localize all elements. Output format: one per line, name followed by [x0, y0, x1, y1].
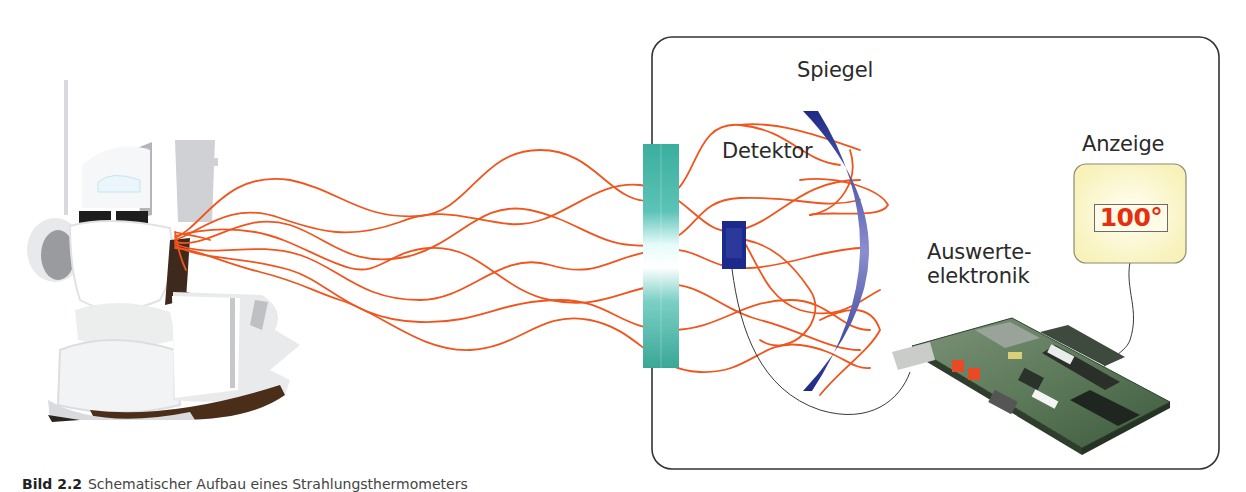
caption-number: Bild 2.2 [22, 476, 82, 492]
electronics-label-line2: elektronik [927, 265, 1029, 289]
caption-text: Schematischer Aufbau eines Strahlungsthe… [88, 476, 468, 492]
teapot-and-cups-illustration [27, 80, 300, 422]
electronics-label-line1: Auswerte- [927, 241, 1031, 265]
figure-caption: Bild 2.2Schematischer Aufbau eines Strah… [22, 476, 468, 492]
detector-label: Detektor [722, 140, 813, 164]
detector [722, 221, 746, 269]
optical-filter [643, 144, 679, 368]
temperature-readout: 100° [1094, 204, 1168, 232]
mirror-label: Spiegel [797, 59, 873, 83]
evaluation-electronics-board [892, 318, 1170, 455]
display-label: Anzeige [1082, 133, 1164, 157]
